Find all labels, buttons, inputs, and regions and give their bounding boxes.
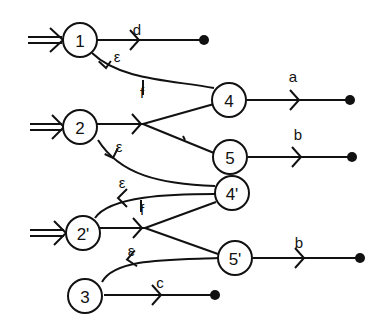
- node-4p: 4': [215, 176, 249, 210]
- node-1: 1: [63, 23, 97, 57]
- svg-text:4': 4': [226, 185, 239, 204]
- svg-text:2: 2: [75, 119, 84, 138]
- label-eps-2: ε: [116, 138, 123, 155]
- initial-arrow-1: [28, 28, 63, 52]
- label-eps-3: ε: [119, 174, 126, 191]
- label-b-2: b: [295, 234, 303, 251]
- node-3: 3: [68, 279, 102, 313]
- label-d: d: [133, 21, 141, 38]
- diagram-svg: 1 2 2' 3 4 5 4' 5' d ε f a b ε ε f ε b c: [0, 0, 386, 326]
- label-eps-4: ε: [128, 242, 135, 259]
- svg-text:5': 5': [229, 250, 242, 269]
- edge-4-a: [247, 90, 355, 110]
- node-2: 2: [63, 110, 97, 144]
- label-a: a: [289, 68, 298, 85]
- label-c: c: [156, 274, 164, 291]
- svg-text:4: 4: [224, 92, 233, 111]
- label-f-1: f: [140, 84, 145, 101]
- node-4: 4: [212, 83, 246, 117]
- initial-arrow-2: [30, 115, 64, 139]
- edge-4p-to-2p: [95, 189, 215, 218]
- edge-5-b: [248, 147, 357, 167]
- initial-arrow-2p: [30, 221, 66, 245]
- label-eps-1: ε: [114, 48, 121, 65]
- edge-1-d: [97, 30, 209, 50]
- svg-text:1: 1: [75, 32, 84, 51]
- edges-2p-fork: [100, 202, 218, 254]
- label-b-1: b: [294, 126, 302, 143]
- svg-text:5: 5: [225, 149, 234, 168]
- automaton-diagram: 1 2 2' 3 4 5 4' 5' d ε f a b ε ε f ε b c: [0, 0, 386, 326]
- node-5p: 5': [218, 241, 252, 275]
- edge-4-to-1: [92, 53, 214, 95]
- label-f-2: f: [140, 201, 145, 218]
- node-5: 5: [213, 140, 247, 174]
- edges-2-fork: [97, 104, 214, 153]
- node-2p: 2': [66, 216, 100, 250]
- svg-text:3: 3: [80, 288, 89, 307]
- edge-5p-b: [253, 248, 365, 268]
- svg-text:2': 2': [77, 225, 90, 244]
